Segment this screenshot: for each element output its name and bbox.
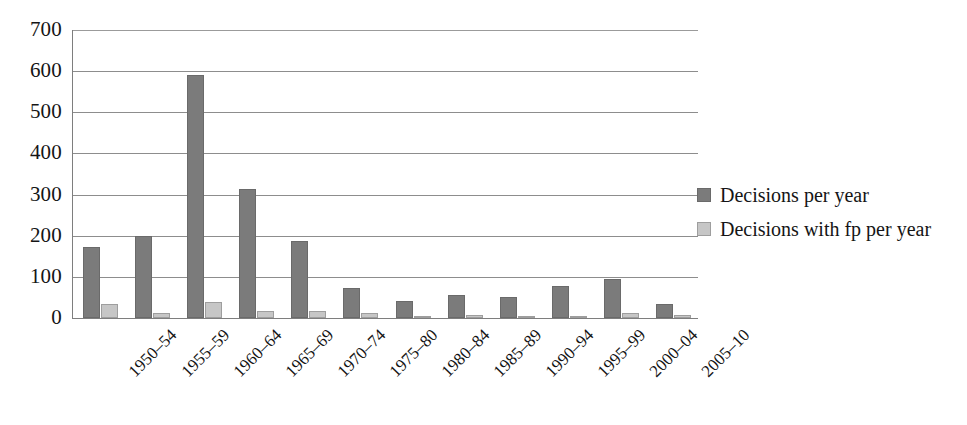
bar-chart: 0100200300400500600700 1950–541955–59196… [0, 0, 967, 425]
bar-decisions-per-year [448, 295, 465, 318]
legend-item: Decisions per year [697, 178, 967, 212]
bar-decisions-per-year [291, 241, 308, 318]
y-axis-tick-label: 300 [0, 184, 62, 205]
bar-decisions-per-year [552, 286, 569, 318]
bar-decisions-with-fp-per-year [309, 311, 326, 318]
bar-decisions-per-year [187, 75, 204, 318]
bar-group [125, 30, 177, 318]
bar-decisions-per-year [396, 301, 413, 318]
y-axis-tick-label: 400 [0, 142, 62, 163]
y-axis-tick-label: 0 [0, 307, 62, 328]
y-axis-tick-label: 100 [0, 266, 62, 287]
bar-decisions-per-year [83, 247, 100, 318]
bar-decisions-with-fp-per-year [570, 316, 587, 318]
bar-decisions-with-fp-per-year [361, 313, 378, 318]
bar-decisions-with-fp-per-year [518, 316, 535, 318]
bar-group [333, 30, 385, 318]
x-axis-tick-label: 1980–84 [438, 326, 493, 381]
bar-group [73, 30, 125, 318]
bar-decisions-with-fp-per-year [257, 311, 274, 318]
legend-swatch-light-icon [697, 222, 711, 236]
y-axis-tick-label: 200 [0, 225, 62, 246]
x-axis-tick-label: 2000–04 [647, 326, 702, 381]
x-axis-tick-label: 1970–74 [334, 326, 389, 381]
bar-decisions-with-fp-per-year [622, 313, 639, 318]
bar-group [438, 30, 490, 318]
chart-legend: Decisions per yearDecisions with fp per … [697, 178, 967, 246]
bar-decisions-per-year [135, 236, 152, 318]
x-axis-tick-label: 2005–10 [699, 326, 754, 381]
y-axis-tick-label: 700 [0, 19, 62, 40]
bar-decisions-with-fp-per-year [153, 313, 170, 318]
bar-group [386, 30, 438, 318]
y-axis-tick-label: 500 [0, 101, 62, 122]
bar-decisions-per-year [656, 304, 673, 318]
bar-decisions-with-fp-per-year [205, 302, 222, 318]
y-axis: 0100200300400500600700 [0, 30, 62, 318]
bar-decisions-per-year [239, 189, 256, 318]
y-axis-tick-label: 600 [0, 60, 62, 81]
legend-label: Decisions per year [720, 184, 869, 206]
x-axis-tick-label: 1975–80 [386, 326, 441, 381]
bar-group [594, 30, 646, 318]
x-axis-tick-label: 1955–59 [178, 326, 233, 381]
legend-swatch-dark-icon [697, 188, 711, 202]
x-axis-tick-label: 1960–64 [230, 326, 285, 381]
bar-decisions-per-year [500, 297, 517, 318]
bar-decisions-with-fp-per-year [101, 304, 118, 318]
bar-group [281, 30, 333, 318]
x-axis-tick-label: 1995–99 [595, 326, 650, 381]
x-axis-tick-label: 1950–54 [126, 326, 181, 381]
bar-decisions-per-year [343, 288, 360, 318]
bar-group [177, 30, 229, 318]
bar-decisions-with-fp-per-year [466, 315, 483, 318]
bar-group [542, 30, 594, 318]
legend-label: Decisions with fp per year [720, 218, 931, 240]
bars-layer [73, 30, 698, 318]
bar-decisions-per-year [604, 279, 621, 318]
x-axis-tick-label: 1990–94 [543, 326, 598, 381]
bar-decisions-with-fp-per-year [414, 316, 431, 318]
bar-group [646, 30, 698, 318]
x-axis: 1950–541955–591960–641965–691970–741975–… [72, 320, 697, 420]
bar-decisions-with-fp-per-year [674, 315, 691, 318]
bar-group [229, 30, 281, 318]
bar-group [490, 30, 542, 318]
legend-item: Decisions with fp per year [697, 212, 967, 246]
plot-area [72, 30, 698, 319]
x-axis-tick-label: 1965–69 [282, 326, 337, 381]
x-axis-tick-label: 1985–89 [490, 326, 545, 381]
